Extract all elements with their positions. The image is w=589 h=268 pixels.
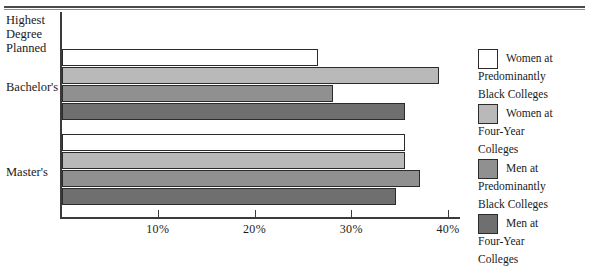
- legend-swatch-icon: [478, 49, 498, 69]
- bar-masters-men-four-year: [62, 188, 396, 205]
- legend-item: Women at Four-Year Colleges: [478, 103, 589, 157]
- x-tick-20: [255, 210, 256, 218]
- y-axis-title-line2: Degree: [6, 28, 42, 42]
- x-tick-40: [448, 210, 449, 218]
- y-axis-title-line3: Planned: [6, 42, 46, 56]
- x-tick-30: [351, 210, 352, 218]
- category-label-masters: Master's: [6, 166, 48, 180]
- category-label-bachelors: Bachelor's: [6, 81, 58, 95]
- header-rule-thin: [4, 9, 585, 10]
- x-tick-label-30: 30%: [340, 222, 363, 237]
- legend-item: Men at Predominantly Black Colleges: [478, 158, 589, 212]
- y-axis-title-line1: Highest: [6, 14, 45, 28]
- x-tick-label-20: 20%: [243, 222, 266, 237]
- legend-swatch-icon: [478, 104, 498, 124]
- bar-masters-men-black-colleges: [62, 170, 420, 187]
- bar-bachelors-men-four-year: [62, 103, 405, 120]
- legend-item: Men at Four-Year Colleges: [478, 213, 589, 267]
- x-tick-label-40: 40%: [437, 222, 460, 237]
- bar-bachelors-women-four-year: [62, 67, 439, 84]
- bar-bachelors-men-black-colleges: [62, 85, 333, 102]
- legend-item: Women at Predominantly Black Colleges: [478, 48, 589, 102]
- x-axis-line: [60, 217, 460, 219]
- chart-legend: Women at Predominantly Black Colleges Wo…: [478, 48, 589, 268]
- legend-swatch-icon: [478, 214, 498, 234]
- bar-bachelors-women-black-colleges: [62, 49, 318, 66]
- x-tick-10: [158, 210, 159, 218]
- bar-masters-women-black-colleges: [62, 134, 405, 151]
- header-rule: [4, 6, 585, 8]
- x-tick-label-10: 10%: [146, 222, 169, 237]
- legend-swatch-icon: [478, 159, 498, 179]
- bar-masters-women-four-year: [62, 152, 405, 169]
